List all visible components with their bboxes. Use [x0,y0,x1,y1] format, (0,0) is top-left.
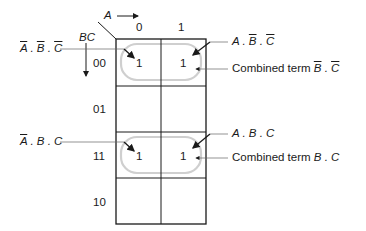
cell-11-0: 1 [136,151,142,163]
karnaugh-map-drawing [0,0,366,231]
row-header-10: 10 [93,197,106,209]
row-header-00: 00 [93,58,106,70]
annotation-combined-term-bottom: Combined term B . C [232,152,339,164]
column-header-0: 0 [136,22,142,34]
column-variable-label: A [104,10,112,22]
row-header-01: 01 [93,104,106,116]
cell-00-0: 1 [136,58,142,70]
annotation-a-not-b-not-c: A . B . C [232,36,274,48]
cell-11-1: 1 [180,151,186,163]
cell-00-1: 1 [180,58,186,70]
annotation-a-b-c: A . B . C [232,128,274,140]
column-header-1: 1 [178,22,184,34]
annotation-not-a-b-c: A . B . C [20,136,62,148]
annotation-combined-term-top: Combined term B . C [232,63,339,75]
row-variable-label: BC [79,32,95,44]
annotation-not-a-not-b-not-c: A . B . C [20,43,62,55]
corner-diagonal [98,22,116,39]
row-header-11: 11 [93,151,105,163]
